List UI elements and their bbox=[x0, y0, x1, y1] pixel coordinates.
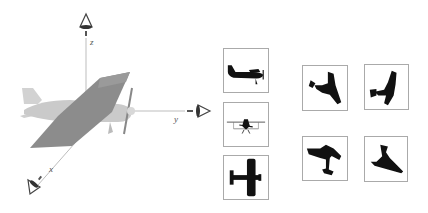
axis-label-y: y bbox=[174, 114, 178, 124]
camera-z-icon bbox=[80, 14, 92, 36]
plane-side-silhouette-icon bbox=[224, 49, 268, 92]
plane-random-silhouette-1-icon bbox=[303, 66, 347, 110]
viewpoint-diagram: z y x bbox=[0, 0, 214, 213]
plane-random-silhouette-2-icon bbox=[365, 65, 408, 109]
axes-and-plane bbox=[0, 0, 214, 213]
plane-random-silhouette-3-icon bbox=[303, 137, 347, 180]
camera-x-icon bbox=[28, 176, 42, 194]
axis-label-z: z bbox=[90, 37, 94, 47]
axis-label-x: x bbox=[49, 164, 53, 174]
canonical-view-front bbox=[223, 102, 269, 147]
random-view-4 bbox=[364, 136, 408, 182]
airplane-model bbox=[20, 72, 135, 148]
canonical-view-side bbox=[223, 48, 269, 93]
random-view-2 bbox=[364, 64, 409, 110]
plane-random-silhouette-4-icon bbox=[365, 137, 407, 181]
plane-front-silhouette-icon bbox=[224, 103, 268, 146]
random-view-1 bbox=[302, 65, 348, 111]
camera-y-icon bbox=[187, 105, 210, 117]
canonical-view-top bbox=[223, 155, 269, 200]
random-view-3 bbox=[302, 136, 348, 181]
plane-top-silhouette-icon bbox=[224, 156, 268, 199]
